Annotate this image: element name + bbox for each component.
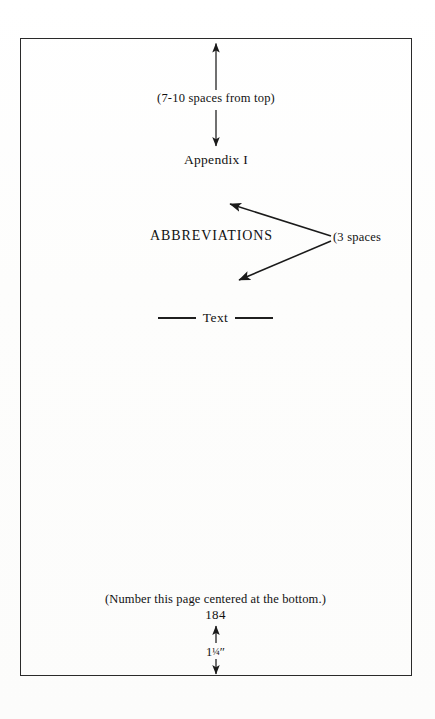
text-rule-right <box>235 317 273 319</box>
appendix-heading: Appendix I <box>0 153 435 167</box>
page-outline-frame <box>20 38 412 676</box>
bottom-margin-unit: ″ <box>220 645 225 659</box>
text-word-label: Text <box>203 311 228 325</box>
appendix-heading-text: Appendix I <box>184 153 248 167</box>
text-rule-left <box>158 317 196 319</box>
diagram-page: (7-10 spaces from top) Appendix I ABBREV… <box>0 0 435 719</box>
top-spacing-note: (7-10 spaces from top) <box>0 92 435 105</box>
section-heading-abbreviations: ABBREVIATIONS <box>150 229 273 243</box>
number-page-note: (Number this page centered at the bottom… <box>0 593 435 606</box>
page-number: 184 <box>0 608 435 621</box>
bottom-margin-fraction: ¼ <box>212 646 220 657</box>
bottom-margin-measurement: 1¼″ <box>0 646 435 659</box>
top-spacing-note-text: (7-10 spaces from top) <box>157 92 275 105</box>
three-spaces-note: (3 spaces <box>333 231 381 244</box>
text-body-marker: Text <box>0 311 435 325</box>
